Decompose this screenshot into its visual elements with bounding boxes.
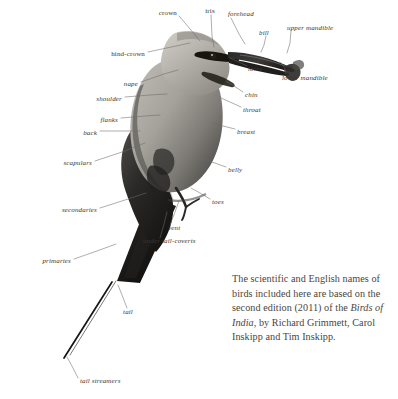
label-lores: lores: [248, 66, 263, 73]
label-vent: vent: [168, 225, 180, 232]
label-hind-crown: hind-crown: [111, 51, 145, 58]
leader-forehead: [231, 18, 245, 44]
label-chin: chin: [245, 92, 258, 99]
leader-tail: [118, 285, 127, 308]
label-breast: breast: [237, 129, 255, 136]
label-throat: throat: [243, 107, 261, 114]
eye-iris: [210, 53, 217, 60]
caption-line-2: birds included here are based on the: [232, 288, 380, 299]
label-bill: bill: [259, 30, 269, 37]
label-tail: tail: [123, 309, 133, 316]
caption-title-part-2: India: [232, 317, 254, 328]
label-upper-mandible: upper mandible: [287, 25, 333, 32]
label-back: back: [83, 130, 97, 137]
label-iris: iris: [205, 8, 215, 15]
caption-title-part-1: Birds of: [350, 302, 383, 313]
label-flanks: flanks: [100, 117, 118, 124]
leader-upper-mandible: [287, 31, 291, 53]
leader-tail-streamers: [67, 357, 78, 378]
label-nape: nape: [124, 81, 138, 88]
caption-line-3a: second edition (2011) of the: [232, 302, 350, 313]
label-belly: belly: [228, 167, 242, 174]
tail-streamer-shaft: [64, 282, 112, 358]
label-shoulder: shoulder: [96, 96, 122, 103]
label-crown: crown: [159, 10, 177, 17]
tail-streamer-shaft-2: [70, 281, 116, 355]
leader-primaries: [74, 244, 116, 259]
label-secondaries: secondaries: [62, 207, 97, 214]
label-lower-mandible: lower mandible: [282, 75, 328, 82]
caption-line-5: Inskipp and Tim Inskipp.: [232, 331, 336, 342]
label-tail-streamers: tail streamers: [80, 378, 121, 385]
label-toes: toes: [212, 199, 224, 206]
eye-highlight: [211, 54, 213, 56]
caption-line-4b: , by Richard Grimmett, Carol: [254, 317, 375, 328]
prey-wing: [293, 60, 304, 70]
caption-line-1: The scientific and English names of: [232, 273, 380, 284]
label-forehead: forehead: [228, 11, 254, 18]
leader-bill: [261, 36, 266, 52]
bird-topography-figure: crown iris forehead bill upper mandible …: [0, 0, 398, 399]
label-scapulars: scapulars: [63, 160, 92, 167]
source-caption: The scientific and English names of bird…: [232, 272, 384, 345]
leader-throat: [221, 98, 241, 107]
label-under-tail-coverts: under tail-coverts: [143, 238, 196, 245]
perch-branch: [168, 194, 206, 201]
label-primaries: primaries: [42, 258, 71, 265]
